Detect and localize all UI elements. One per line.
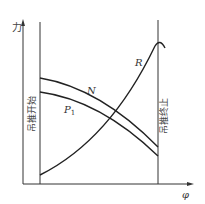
end-label: 吊推终止 (158, 98, 169, 134)
x-axis-label: φ (182, 189, 189, 200)
x-axis-arrow-icon (187, 182, 194, 186)
force-diagram: 力 φ N P1 R 吊推开始 吊推终止 (0, 0, 205, 204)
curve-p1-label: P1 (63, 104, 75, 117)
curve-r-label: R (134, 57, 143, 68)
start-label: 吊推开始 (26, 96, 37, 132)
curve-n-label: N (86, 85, 97, 96)
curve-r (40, 42, 165, 175)
curve-p1 (40, 92, 158, 156)
y-axis-label: 力 (12, 21, 22, 33)
